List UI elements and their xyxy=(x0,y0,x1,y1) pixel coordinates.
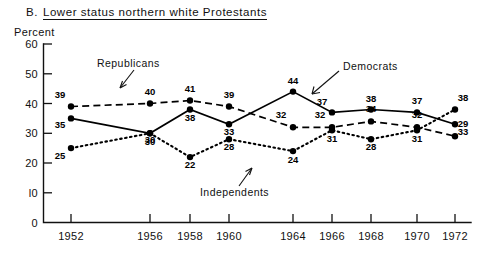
data-point-label: 38 xyxy=(458,92,469,103)
data-point-label: 32 xyxy=(276,109,287,120)
data-point-marker xyxy=(226,103,232,109)
series-layer xyxy=(68,88,458,160)
data-point-marker xyxy=(147,100,153,106)
y-tick-label: 20 xyxy=(25,157,38,169)
x-tick-label: 1958 xyxy=(177,230,203,242)
x-tick-label: 1956 xyxy=(137,230,163,242)
y-tick-label: 60 xyxy=(25,38,38,50)
data-point-marker xyxy=(68,145,74,151)
data-point-label: 41 xyxy=(185,83,196,94)
series-line-republicans xyxy=(71,101,455,137)
data-point-marker xyxy=(68,103,74,109)
data-point-marker xyxy=(290,88,296,94)
data-point-label: 30 xyxy=(145,136,156,147)
series-label-republicans: Republicans xyxy=(97,57,160,69)
x-tick-label: 1966 xyxy=(319,230,345,242)
x-tick-label: 1972 xyxy=(442,230,468,242)
data-point-label: 31 xyxy=(327,133,338,144)
data-point-label: 39 xyxy=(55,89,66,100)
data-point-label: 32 xyxy=(315,109,326,120)
y-axis-ticks xyxy=(44,44,53,193)
y-tick-label: 40 xyxy=(25,98,38,110)
republicans-arrow-icon xyxy=(120,70,134,88)
x-tick-label: 1968 xyxy=(358,230,384,242)
data-point-label: 31 xyxy=(412,133,423,144)
data-point-label: 28 xyxy=(366,141,377,152)
data-point-label: 34 xyxy=(366,103,377,114)
y-axis-tick-labels: 60 50 40 30 20 l0 0 xyxy=(25,38,38,229)
data-point-label: 37 xyxy=(412,95,423,106)
data-point-label: 44 xyxy=(288,75,299,86)
data-point-label: 33 xyxy=(224,126,235,137)
independents-arrowhead-icon xyxy=(246,168,253,175)
data-point-marker xyxy=(452,106,458,112)
data-point-marker xyxy=(329,109,335,115)
data-point-label: 38 xyxy=(366,93,377,104)
data-point-label: 32 xyxy=(412,109,423,120)
x-axis-ticks xyxy=(71,214,455,223)
data-point-label: 38 xyxy=(185,112,196,123)
series-label-democrats: Democrats xyxy=(343,60,398,72)
data-point-marker xyxy=(290,124,296,130)
democrats-arrow-icon xyxy=(312,71,339,94)
data-point-label: 40 xyxy=(145,86,156,97)
y-tick-label: l0 xyxy=(29,187,38,199)
x-tick-label: 1960 xyxy=(216,230,242,242)
data-point-label: 35 xyxy=(55,119,66,130)
line-chart-plot: 60 50 40 30 20 l0 0 1952 1956 1958 1960 xyxy=(0,0,479,255)
point-label-layer: 3940413932323432293530383344373837332530… xyxy=(55,75,469,171)
independents-arrow-icon xyxy=(239,168,252,186)
data-point-label: 39 xyxy=(224,89,235,100)
data-point-label: 28 xyxy=(224,141,235,152)
data-point-marker xyxy=(187,97,193,103)
x-tick-label: 1964 xyxy=(280,230,306,242)
x-tick-label: 1952 xyxy=(58,230,84,242)
data-point-label: 37 xyxy=(317,96,328,107)
data-point-marker xyxy=(368,118,374,124)
series-label-independents: Independents xyxy=(200,186,269,198)
series-line-independents xyxy=(71,110,455,158)
data-point-label: 24 xyxy=(288,154,299,165)
data-point-label: 25 xyxy=(55,150,66,161)
chart-panel: B.Lower status northern white Protestant… xyxy=(0,0,479,255)
data-point-label: 33 xyxy=(458,126,469,137)
series-line-democrats xyxy=(71,92,455,134)
y-tick-label: 50 xyxy=(25,68,38,80)
data-point-marker xyxy=(68,115,74,121)
x-axis-tick-labels: 1952 1956 1958 1960 1964 1966 1968 1970 … xyxy=(58,230,468,242)
x-tick-label: 1970 xyxy=(404,230,430,242)
data-point-label: 22 xyxy=(185,159,196,170)
y-tick-label: 30 xyxy=(25,127,38,139)
y-tick-label: 0 xyxy=(32,217,38,229)
